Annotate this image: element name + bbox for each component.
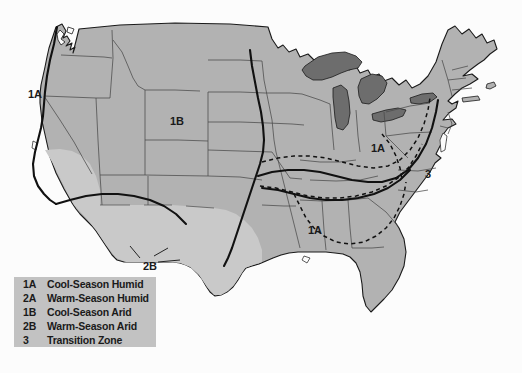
legend-code-2b: 2B <box>14 320 47 332</box>
legend-code-1b: 1B <box>14 306 47 318</box>
mississippi-delta-notch <box>302 256 310 263</box>
legend-label-2b: Warm-Season Arid <box>47 320 137 332</box>
map-label-intermountain-1b: 1B <box>170 115 184 127</box>
map-label-ohio-valley-1a: 1A <box>371 142 385 154</box>
legend-label-2a: Warm-Season Humid <box>47 292 149 304</box>
legend-code-1a: 1A <box>14 278 47 290</box>
legend-row-1a: 1A Cool-Season Humid <box>14 277 156 291</box>
coastal-inlet-north <box>67 27 74 34</box>
cape-cod <box>486 82 496 89</box>
legend-code-2a: 2A <box>14 292 47 304</box>
legend-row-3: 3 Transition Zone <box>14 333 156 347</box>
map-label-southern-plains-2b: 2B <box>143 260 157 272</box>
legend-row-1b: 1B Cool-Season Arid <box>14 305 156 319</box>
legend-row-2b: 2B Warm-Season Arid <box>14 319 156 333</box>
legend-row-2a: 2A Warm-Season Humid <box>14 291 156 305</box>
legend-label-1a: Cool-Season Humid <box>47 278 143 290</box>
legend-label-1b: Cool-Season Arid <box>47 306 132 318</box>
climate-zone-map-figure: 1A 1B 1A 3 1A 2B 1A Cool-Season Humid 2A… <box>0 0 522 373</box>
legend-label-3: Transition Zone <box>47 334 122 346</box>
map-legend: 1A Cool-Season Humid 2A Warm-Season Humi… <box>14 277 156 347</box>
map-label-pacific-northwest-1a: 1A <box>28 88 42 100</box>
long-island <box>462 96 480 102</box>
map-label-mid-atlantic-3: 3 <box>425 168 431 180</box>
legend-code-3: 3 <box>14 334 47 346</box>
map-label-mid-south-1a: 1A <box>308 224 322 236</box>
